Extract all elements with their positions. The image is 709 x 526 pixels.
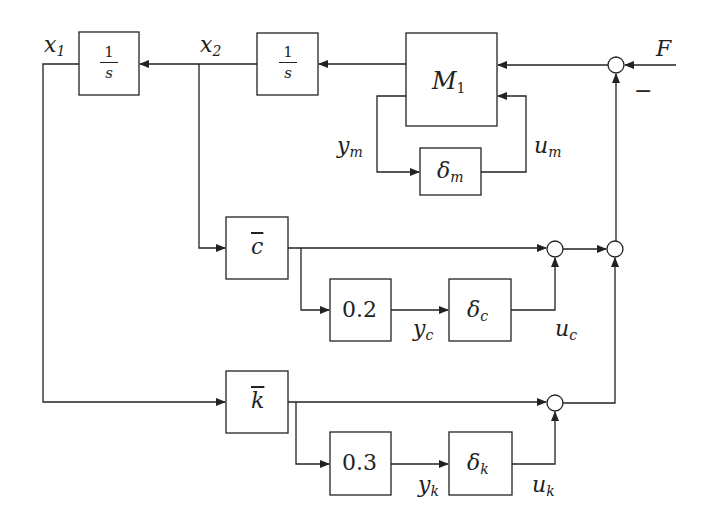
signal-label-um: um — [534, 135, 561, 159]
sum-junction-mid — [607, 241, 623, 257]
m1-base: M — [432, 67, 457, 95]
yc-base: y — [413, 316, 425, 341]
sum-junction-c — [547, 241, 563, 257]
gain-c-label: 0.2 — [342, 299, 377, 321]
uc-sub: c — [569, 327, 577, 343]
yk-sub: k — [430, 483, 438, 499]
m1-label: M1 — [432, 69, 466, 95]
signal-label-x2: x2 — [200, 34, 221, 58]
ym-sub: m — [349, 144, 362, 160]
cbar-label: c — [251, 236, 263, 258]
delta-m-label: δm — [437, 160, 464, 184]
sum-junction-top — [608, 57, 624, 73]
delta-c-sub: c — [480, 308, 488, 324]
uk-base: u — [532, 472, 546, 497]
kbar-text: k — [251, 388, 264, 413]
int2-den: s — [279, 63, 297, 81]
x1-base: x — [44, 32, 56, 57]
gain-k-label: 0.3 — [342, 452, 377, 474]
delta-k-base: δ — [467, 450, 480, 475]
uk-sub: k — [546, 483, 554, 499]
int2-num: 1 — [279, 45, 297, 63]
delta-m-sub: m — [450, 169, 463, 185]
delta-c-label: δc — [467, 299, 488, 323]
um-base: u — [534, 133, 548, 158]
integrator-2-label: 1s — [279, 45, 297, 81]
signal-label-x1: x1 — [44, 34, 65, 58]
int1-den: s — [100, 63, 118, 81]
ym-base: y — [337, 133, 349, 158]
uc-base: u — [555, 316, 569, 341]
signal-label-ym: ym — [337, 135, 363, 159]
signal-label-uk: uk — [532, 474, 555, 498]
um-sub: m — [548, 144, 561, 160]
delta-k-sub: k — [480, 461, 488, 477]
delta-m-base: δ — [437, 158, 450, 183]
yc-sub: c — [425, 327, 433, 343]
m1-sub: 1 — [457, 80, 466, 96]
signal-label-yk: yk — [418, 474, 439, 498]
signal-label-uc: uc — [555, 318, 577, 342]
kbar-label: k — [251, 390, 264, 412]
cbar-text: c — [251, 234, 263, 259]
signal-label-yc: yc — [413, 318, 433, 342]
integrator-1-label: 1s — [100, 45, 118, 81]
yk-base: y — [418, 472, 430, 497]
x1-sub: 1 — [56, 43, 65, 59]
x2-sub: 2 — [212, 43, 221, 59]
delta-k-label: δk — [467, 452, 489, 476]
sum-junction-k — [547, 395, 563, 411]
int1-num: 1 — [100, 45, 118, 63]
signal-label-F: F — [656, 38, 671, 60]
x2-base: x — [200, 32, 212, 57]
delta-c-base: δ — [467, 297, 480, 322]
minus-sign: − — [634, 80, 652, 102]
